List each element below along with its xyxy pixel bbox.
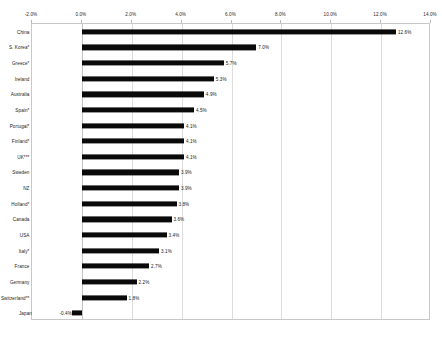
bar (82, 264, 149, 269)
bar-rows: China12.6%S. Korea*7.0%Greece*5.7%Irelan… (32, 24, 429, 319)
x-axis-tick-label: 10.0% (323, 12, 337, 17)
bar-value-label: 12.6% (398, 29, 412, 34)
bar (82, 279, 137, 284)
x-axis-tick-label: 2.0% (125, 12, 136, 17)
bar-row: Greece*5.7% (32, 55, 429, 71)
x-axis-tick-label: 8.0% (275, 12, 286, 17)
bar (82, 76, 214, 81)
bar-row: Italy*3.1% (32, 243, 429, 259)
bar (82, 186, 179, 191)
category-label: China (17, 29, 30, 34)
category-label: Germany (10, 279, 30, 284)
x-axis-tick-mark (430, 20, 431, 23)
bar-value-label: 3.1% (161, 248, 172, 253)
x-axis-tick-label: 4.0% (175, 12, 186, 17)
bar (82, 248, 159, 253)
category-label: Italy* (19, 248, 30, 253)
bar-value-label: 3.8% (178, 201, 189, 206)
category-label: Australia (11, 92, 30, 97)
x-axis-tick-label: -2.0% (25, 12, 38, 17)
bar-value-label: 7.0% (258, 45, 269, 50)
category-label: Switzerland** (1, 295, 30, 300)
bar (82, 107, 194, 112)
x-axis-tick-label: 0.0% (75, 12, 86, 17)
bar-value-label: 5.7% (226, 61, 237, 66)
bar-value-label: 3.4% (168, 233, 179, 238)
bar-row: Portugal*4.1% (32, 118, 429, 134)
category-label: Japan (6, 311, 32, 316)
bar (72, 311, 82, 316)
bar-value-label: 3.9% (181, 186, 192, 191)
bar-row: Germany2.2% (32, 274, 429, 290)
category-label: UK*** (17, 154, 29, 159)
bar-row: Finland*4.1% (32, 133, 429, 149)
bar (82, 60, 224, 65)
bar-row: Spain*4.5% (32, 102, 429, 118)
bar-value-label: 5.3% (216, 76, 227, 81)
category-label: Canada (13, 217, 30, 222)
bar-row: USA3.4% (32, 227, 429, 243)
category-label: Finland* (12, 139, 30, 144)
bar-chart: -2.0%0.0%2.0%4.0%6.0%8.0%10.0%12.0%14.0%… (0, 0, 442, 337)
bar-value-label: -0.4% (59, 311, 72, 316)
bar-value-label: 4.5% (196, 107, 207, 112)
bar-row: Sweden3.9% (32, 165, 429, 181)
bar-row: NZ3.9% (32, 180, 429, 196)
bar (82, 295, 127, 300)
bar-row: Ireland5.3% (32, 71, 429, 87)
category-label: S. Korea* (9, 45, 30, 50)
category-label: Greece* (12, 61, 30, 66)
category-label: Sweden (12, 170, 29, 175)
x-axis-tick-label: 12.0% (373, 12, 387, 17)
category-label: Spain* (15, 107, 29, 112)
bar-row: Holland*3.8% (32, 196, 429, 212)
bar (82, 217, 172, 222)
bar-row: Japan-0.4% (32, 305, 429, 321)
bar-value-label: 4.1% (186, 154, 197, 159)
bar-row: Switzerland**1.8% (32, 290, 429, 306)
bar (82, 232, 167, 237)
category-label: NZ (23, 186, 29, 191)
x-axis-tick-label: 14.0% (423, 12, 437, 17)
category-label: Ireland (15, 76, 30, 81)
bar-value-label: 3.9% (181, 170, 192, 175)
x-axis-top: -2.0%0.0%2.0%4.0%6.0%8.0%10.0%12.0%14.0% (0, 0, 442, 24)
bar-value-label: 4.1% (186, 139, 197, 144)
category-label: USA (20, 233, 30, 238)
category-label: France (15, 264, 30, 269)
bar (82, 123, 184, 128)
bar (82, 29, 396, 34)
bar-row: Canada3.6% (32, 212, 429, 228)
bar-row: UK***4.1% (32, 149, 429, 165)
bar-row: Australia4.9% (32, 87, 429, 103)
plot-area: China12.6%S. Korea*7.0%Greece*5.7%Irelan… (31, 23, 430, 320)
bar-value-label: 2.7% (151, 264, 162, 269)
bar (82, 154, 184, 159)
bar (82, 139, 184, 144)
bar (82, 201, 177, 206)
bar-value-label: 4.9% (206, 92, 217, 97)
bar-value-label: 3.6% (173, 217, 184, 222)
bar-row: France2.7% (32, 258, 429, 274)
bar-value-label: 4.1% (186, 123, 197, 128)
bar-value-label: 2.2% (139, 279, 150, 284)
bar-row: S. Korea*7.0% (32, 40, 429, 56)
category-label: Holland* (11, 201, 29, 206)
bar (82, 92, 204, 97)
category-label: Portugal* (10, 123, 30, 128)
bar-value-label: 1.8% (129, 295, 140, 300)
x-axis-tick-label: 6.0% (225, 12, 236, 17)
bar (82, 170, 179, 175)
bar-row: China12.6% (32, 24, 429, 40)
bar (82, 45, 257, 50)
